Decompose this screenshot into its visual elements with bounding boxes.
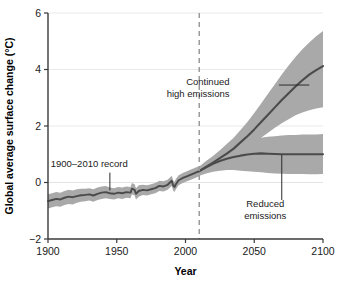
x-tick-label-1900: 1900 [36,245,60,257]
y-tick-label-6: 6 [35,7,41,19]
x-tick-label-2050: 2050 [243,245,267,257]
y-tick-label-2: 2 [35,120,41,132]
y-axis-title: Global average surface change (°C) [3,38,15,215]
x-tick-label-2000: 2000 [174,245,198,257]
y-tick-label-4: 4 [35,63,41,75]
annotation-label-continued-high-emissions-line1: Continued [186,76,229,87]
annotation-label-continued-high-emissions-line2: high emissions [167,88,230,99]
x-tick-label-1950: 1950 [105,245,129,257]
y-tick-label--2: −2 [29,233,41,245]
annotation-label-reduced-emissions-line2: emissions [244,210,286,221]
x-axis-title: Year [174,265,196,277]
chart-canvas: −2024619001950200020502100YearGlobal ave… [0,0,339,285]
annotation-label-reduced-emissions-line1: Reduced [246,198,284,209]
uncertainty-band-historical [48,166,199,208]
climate-projection-chart: −2024619001950200020502100YearGlobal ave… [0,0,339,285]
y-tick-label-0: 0 [35,176,41,188]
x-tick-label-2100: 2100 [311,245,335,257]
annotation-label-historical-record: 1900–2010 record [51,158,128,169]
